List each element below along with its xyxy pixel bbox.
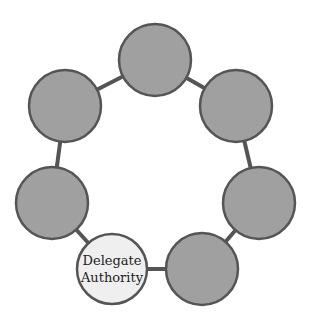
node-left — [16, 167, 88, 239]
label-line-1: Delegate — [77, 252, 147, 269]
delegate-authority-label: Delegate Authority — [77, 252, 147, 286]
label-line-2: Authority — [77, 269, 147, 286]
node-bottom-right — [166, 233, 238, 305]
node-top-right — [200, 70, 272, 142]
cycle-diagram — [0, 0, 311, 324]
node-top-left — [29, 70, 101, 142]
node-top — [119, 24, 191, 96]
node-right — [223, 167, 295, 239]
